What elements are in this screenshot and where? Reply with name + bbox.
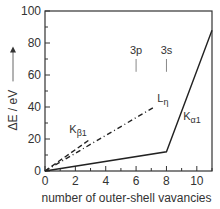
chart: 0246810020406080100number of outer-shell… — [0, 0, 220, 209]
series-label-sub: η — [163, 97, 168, 107]
y-tick-label: 0 — [34, 164, 41, 178]
series-line-2 — [45, 107, 154, 171]
annotation-label: 3s — [161, 44, 173, 56]
series-label: Kβ1 — [69, 123, 87, 138]
y-tick-label: 40 — [28, 100, 42, 114]
y-tick-label: 100 — [21, 4, 41, 18]
series-label-sub: β1 — [77, 128, 87, 138]
series-label-sub: α1 — [190, 115, 200, 125]
x-tick-label: 6 — [133, 174, 140, 188]
y-axis-title: ΔE / eV — [6, 90, 20, 131]
x-tick-label: 4 — [102, 174, 109, 188]
x-tick-label: 10 — [190, 174, 204, 188]
series-line-0 — [45, 30, 212, 171]
series-lines — [45, 30, 212, 171]
axes — [10, 11, 212, 171]
series-label: Kα1 — [183, 110, 201, 125]
annotation-label: 3p — [130, 44, 142, 56]
y-tick-label: 80 — [28, 36, 42, 50]
labels: 0246810020406080100number of outer-shell… — [6, 4, 212, 205]
x-tick-label: 8 — [163, 174, 170, 188]
x-tick-label: 2 — [72, 174, 79, 188]
series-label: Lη — [157, 92, 168, 107]
y-tick-label: 60 — [28, 68, 42, 82]
y-tick-label: 20 — [28, 132, 42, 146]
y-axis-arrow-icon — [10, 46, 16, 52]
x-tick-label: 0 — [42, 174, 49, 188]
x-axis-title: number of outer-shell vavancies — [41, 191, 211, 205]
plot-frame — [45, 11, 212, 171]
